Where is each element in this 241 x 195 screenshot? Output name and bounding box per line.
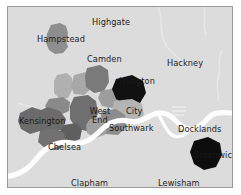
region-paddington[interactable]: [54, 73, 72, 99]
map-graphic: [8, 7, 232, 187]
region-kensington[interactable]: [18, 107, 66, 134]
map-canvas[interactable]: Highgate Hampstead Camden Hackney Isling…: [7, 6, 233, 188]
map-figure: Highgate Hampstead Camden Hackney Isling…: [0, 0, 241, 195]
